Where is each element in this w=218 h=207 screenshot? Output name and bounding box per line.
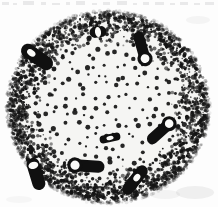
scanned-figure: Black and white stippled drawing of a ci… (0, 0, 218, 207)
stem-cross-section-image (0, 0, 218, 207)
